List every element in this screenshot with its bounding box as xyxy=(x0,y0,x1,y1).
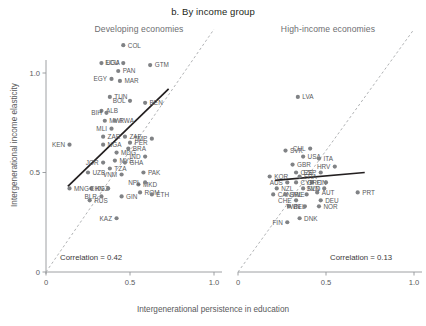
data-point xyxy=(271,192,275,196)
data-point-label: NGA xyxy=(108,141,123,148)
data-point xyxy=(106,186,110,190)
data-point-label: GIN xyxy=(126,193,138,200)
data-point xyxy=(283,149,287,153)
data-point-label: CHL xyxy=(293,145,306,152)
data-point xyxy=(150,137,154,141)
data-point xyxy=(101,135,105,139)
data-point-label: ITA xyxy=(323,155,333,162)
data-point-label: AUT xyxy=(322,189,335,196)
data-point xyxy=(138,190,142,194)
data-point-label: COL xyxy=(128,42,142,49)
x-tick-label: 0.5 xyxy=(321,278,332,287)
data-point xyxy=(121,43,125,47)
data-point-label: KAZ xyxy=(100,215,113,222)
data-point xyxy=(308,147,312,151)
data-point xyxy=(333,164,337,168)
data-point xyxy=(317,156,321,160)
data-point-label: ETH xyxy=(156,191,169,198)
data-point-label: GTM xyxy=(155,61,169,68)
data-point xyxy=(319,170,323,174)
data-point xyxy=(86,170,90,174)
x-tick-label: 0 xyxy=(236,278,240,287)
data-point-label: UZB xyxy=(93,169,106,176)
data-point xyxy=(150,192,154,196)
data-point xyxy=(101,160,105,164)
data-point-label: PAK xyxy=(148,169,161,176)
data-point-label: NOR xyxy=(323,203,338,210)
scatter-plot-canvas: 00.51.000.51.0COLUGAECUGTMPANEGYMARTUNBO… xyxy=(0,0,426,326)
data-point-label: GHA xyxy=(129,159,144,166)
data-point xyxy=(108,95,112,99)
data-point xyxy=(67,186,71,190)
data-point xyxy=(301,154,305,158)
data-point xyxy=(123,135,127,139)
data-point-label: BOL xyxy=(113,97,126,104)
data-point-label: RUS xyxy=(94,197,108,204)
y-tick-label: 0.5 xyxy=(29,168,40,177)
data-point xyxy=(298,216,302,220)
data-point xyxy=(296,95,300,99)
data-point xyxy=(294,170,298,174)
data-point-label: BEN xyxy=(150,99,164,106)
data-point-label: BIH xyxy=(91,109,102,116)
data-point-label: ECU xyxy=(105,59,119,66)
data-point xyxy=(88,198,92,202)
data-point xyxy=(143,154,147,158)
data-point xyxy=(315,190,319,194)
panel-developing: 00.51.000.51.0COLUGAECUGTMPANEGYMARTUNBO… xyxy=(29,29,222,287)
data-point xyxy=(148,63,152,67)
data-point xyxy=(324,180,328,184)
data-point-label: IRL xyxy=(292,191,302,198)
data-point-label: HRV xyxy=(317,163,331,170)
chart-figure: b. By income group Developing economies … xyxy=(0,0,426,326)
data-point xyxy=(114,151,118,155)
data-point xyxy=(118,79,122,83)
data-point xyxy=(114,216,118,220)
data-point-label: PAN xyxy=(123,67,136,74)
data-point xyxy=(319,198,323,202)
data-point xyxy=(143,101,147,105)
data-point-label: LVA xyxy=(302,93,314,100)
data-point xyxy=(305,192,309,196)
data-point-label: CHN xyxy=(90,185,104,192)
data-point xyxy=(99,61,103,65)
diagonal-reference-line xyxy=(238,29,414,272)
data-point xyxy=(290,162,294,166)
panel-high-income: 00.51.0LVASVKCHLUSAITAHRVGBRCZEESPKORFRA… xyxy=(236,29,422,287)
x-tick-label: 0 xyxy=(44,278,48,287)
y-axis-label: Intergenerational income elasticity xyxy=(10,40,19,250)
data-point-label: JOR xyxy=(86,159,99,166)
data-point-label: DNK xyxy=(304,215,318,222)
data-point xyxy=(113,119,117,123)
y-tick-label: 0 xyxy=(36,268,40,277)
data-point-label: EGY xyxy=(94,75,108,82)
data-point-label: MAR xyxy=(124,77,139,84)
x-axis-label: Intergenerational persistence in educati… xyxy=(0,305,426,314)
data-point xyxy=(104,111,108,115)
data-point xyxy=(116,69,120,73)
data-point xyxy=(317,204,321,208)
data-point xyxy=(101,143,105,147)
data-point xyxy=(294,180,298,184)
x-tick-label: 1.0 xyxy=(209,278,220,287)
data-point xyxy=(128,141,132,145)
data-point-label: TWN xyxy=(286,203,301,210)
data-point xyxy=(143,180,147,184)
data-point xyxy=(67,143,71,147)
data-point-label: RWA xyxy=(119,117,134,124)
data-point-label: ZAR xyxy=(108,133,121,140)
data-point xyxy=(141,170,145,174)
data-point-label: NPL xyxy=(128,179,141,186)
data-point-label: MLI xyxy=(96,125,107,132)
data-point xyxy=(113,158,117,162)
data-point xyxy=(103,119,107,123)
correlation-annotation-developing: Correlation = 0.42 xyxy=(60,253,122,262)
data-point xyxy=(356,190,360,194)
data-point xyxy=(285,220,289,224)
data-point xyxy=(120,194,124,198)
data-point-label: PRT xyxy=(362,189,375,196)
x-tick-label: 1.0 xyxy=(409,278,420,287)
data-point-label: MNG xyxy=(74,185,89,192)
x-tick-label: 0.5 xyxy=(125,278,136,287)
data-point xyxy=(109,127,113,131)
